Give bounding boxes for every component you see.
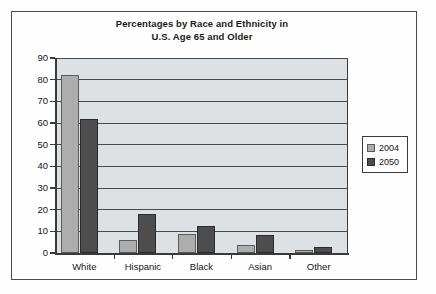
chart-title-line-1: Percentages by Race and Ethnicity in [52, 18, 352, 31]
bar-hispanic-2050 [138, 214, 156, 253]
y-axis-tick-label: 40 [18, 161, 48, 171]
bar-hispanic-2004 [119, 240, 137, 253]
y-axis-tick-label: 60 [18, 118, 48, 128]
legend-label-2050: 2050 [379, 157, 399, 167]
x-axis-label-white: White [55, 261, 114, 272]
y-axis-tick-labels: 0102030405060708090 [18, 0, 50, 294]
chart-figure: Percentages by Race and Ethnicity in U.S… [0, 0, 436, 294]
x-axis-tick-mark [114, 253, 115, 259]
bar-black-2004 [178, 234, 196, 254]
x-axis-label-hispanic: Hispanic [114, 261, 173, 272]
chart-title: Percentages by Race and Ethnicity in U.S… [52, 18, 352, 43]
legend-label-2004: 2004 [379, 143, 399, 153]
bar-white-2050 [80, 119, 98, 253]
y-axis-tick-label: 30 [18, 183, 48, 193]
bar-asian-2004 [237, 245, 255, 253]
y-axis-tick-label: 20 [18, 205, 48, 215]
chart-title-line-2: U.S. Age 65 and Older [52, 31, 352, 44]
x-axis-label-asian: Asian [231, 261, 290, 272]
bar-other-2004 [295, 250, 313, 253]
bar-white-2004 [61, 75, 79, 253]
legend-swatch-2050-icon [367, 158, 375, 166]
x-axis-tick-mark [172, 253, 173, 259]
y-axis-tick-label: 10 [18, 226, 48, 236]
legend-item-2050: 2050 [367, 155, 407, 169]
legend-swatch-2004-icon [367, 144, 375, 152]
y-axis-tick-label: 50 [18, 140, 48, 150]
x-axis-line [55, 253, 349, 255]
x-axis-tick-mark [289, 253, 290, 259]
x-axis-label-black: Black [172, 261, 231, 272]
bar-black-2050 [197, 226, 215, 253]
x-axis-tick-mark [231, 253, 232, 259]
y-axis-tick-label: 0 [18, 248, 48, 258]
bar-series-container [56, 58, 348, 253]
bar-other-2050 [314, 247, 332, 254]
y-axis-tick-label: 80 [18, 75, 48, 85]
bar-asian-2050 [256, 235, 274, 253]
y-axis-tick-label: 90 [18, 53, 48, 63]
y-axis-tick-label: 70 [18, 96, 48, 106]
chart-legend: 2004 2050 [362, 136, 408, 173]
x-axis-label-other: Other [289, 261, 348, 272]
legend-item-2004: 2004 [367, 141, 407, 155]
